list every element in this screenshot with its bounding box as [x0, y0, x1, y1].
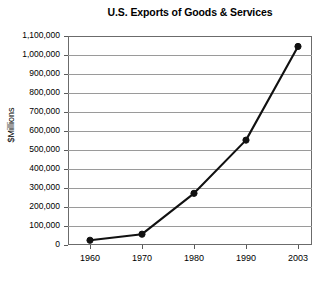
data-point [191, 190, 197, 196]
data-point [243, 137, 249, 143]
x-tick-mark [194, 245, 195, 249]
y-tick-label: 800,000 [0, 88, 60, 97]
chart-title: U.S. Exports of Goods & Services [68, 6, 312, 18]
series-line [90, 46, 298, 240]
y-tick-label: 900,000 [0, 69, 60, 78]
x-tick-label: 1960 [65, 253, 115, 263]
x-tick-label: 1980 [169, 253, 219, 263]
y-tick-label: 1,100,000 [0, 31, 60, 40]
chart-figure: U.S. Exports of Goods & Services $Millio… [0, 0, 334, 281]
data-point [295, 43, 301, 49]
x-tick-mark [298, 245, 299, 249]
y-tick-label: 600,000 [0, 126, 60, 135]
plot-area: 0100,000200,000300,000400,000500,000600,… [68, 36, 312, 245]
series-markers [87, 43, 301, 243]
x-tick-label: 1970 [117, 253, 167, 263]
y-tick-label: 100,000 [0, 221, 60, 230]
y-tick-label: 1,000,000 [0, 50, 60, 59]
data-point [87, 237, 93, 243]
x-tick-mark [142, 245, 143, 249]
y-tick-label: 200,000 [0, 202, 60, 211]
y-tick-label: 0 [0, 240, 60, 249]
data-series [68, 36, 312, 245]
x-tick-label: 1990 [221, 253, 271, 263]
x-tick-label: 2003 [273, 253, 323, 263]
x-tick-mark [246, 245, 247, 249]
y-tick-label: 300,000 [0, 183, 60, 192]
y-tick-label: 500,000 [0, 145, 60, 154]
data-point [139, 231, 145, 237]
y-tick-label: 400,000 [0, 164, 60, 173]
x-tick-mark [90, 245, 91, 249]
y-tick-label: 700,000 [0, 107, 60, 116]
